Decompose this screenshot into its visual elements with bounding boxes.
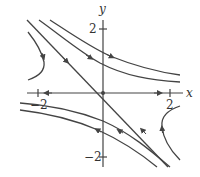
equilibrium-point — [101, 91, 105, 95]
y-tick-label-2: 2 — [89, 22, 97, 36]
trajectory-upper-2 — [50, 20, 180, 75]
phase-portrait: x y −2 2 2 −2 — [0, 0, 200, 177]
arrow-icon — [107, 55, 112, 58]
x-axis-label: x — [186, 86, 193, 100]
trajectory-left-hyperbola — [28, 32, 44, 80]
y-tick-label-neg2: −2 — [84, 150, 102, 164]
y-axis-label: y — [98, 2, 106, 16]
arrow-icon — [162, 128, 163, 133]
trajectory-upper-1 — [39, 20, 180, 82]
arrow-icon — [142, 130, 146, 134]
arrow-icon — [63, 58, 67, 62]
trajectory-right-hyperbola — [162, 106, 180, 160]
